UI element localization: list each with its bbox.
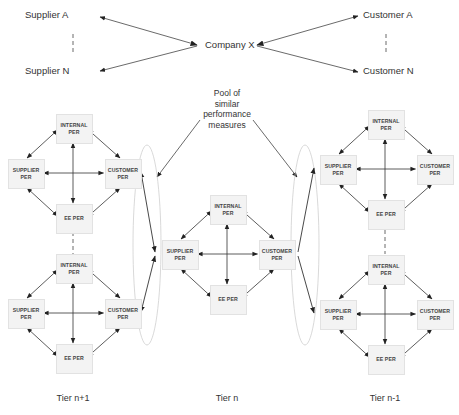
- box-label-line: INTERNAL: [372, 118, 399, 125]
- box-label-line: INTERNAL: [60, 262, 87, 269]
- tier-label-left: Tier n+1: [43, 393, 103, 403]
- box-label-line: CUSTOMER: [420, 163, 450, 170]
- box-ee-per: EE PER: [368, 200, 405, 230]
- box-customer-per: CUSTOMERPER: [417, 155, 454, 185]
- box-label-line: EE PER: [376, 211, 396, 218]
- box-internal-per: INTERNALPER: [56, 114, 93, 144]
- supplier-n-label: Supplier N: [25, 65, 69, 76]
- box-supplier-per: SUPPLIERPER: [320, 300, 357, 330]
- box-label-line: PER: [108, 314, 138, 321]
- tier-label-center: Tier n: [197, 393, 257, 403]
- box-internal-per: INTERNALPER: [56, 254, 93, 284]
- box-label-line: EE PER: [64, 355, 84, 362]
- box-label-line: PER: [108, 174, 138, 181]
- box-supplier-per: SUPPLIERPER: [320, 155, 357, 185]
- pool-label: Pool of similar performance measures: [192, 88, 262, 131]
- box-label-line: PER: [13, 174, 40, 181]
- box-label-line: EE PER: [376, 356, 396, 363]
- box-customer-per: CUSTOMERPER: [417, 300, 454, 330]
- box-internal-per: INTERNALPER: [210, 195, 247, 225]
- box-label-line: INTERNAL: [60, 122, 87, 129]
- box-label-line: SUPPLIER: [325, 308, 352, 315]
- box-label-line: INTERNAL: [372, 263, 399, 270]
- box-label-line: SUPPLIER: [13, 307, 40, 314]
- box-customer-per: CUSTOMERPER: [259, 240, 296, 270]
- box-label-line: PER: [420, 315, 450, 322]
- box-label-line: INTERNAL: [214, 203, 241, 210]
- box-label-line: PER: [13, 314, 40, 321]
- box-customer-per: CUSTOMERPER: [105, 159, 142, 189]
- pool-line: measures: [192, 120, 262, 131]
- box-label-line: PER: [372, 125, 399, 132]
- box-label-line: SUPPLIER: [13, 167, 40, 174]
- box-label-line: PER: [167, 255, 194, 262]
- pool-line: Pool of: [192, 88, 262, 99]
- box-label-line: PER: [262, 255, 292, 262]
- box-label-line: SUPPLIER: [167, 248, 194, 255]
- box-label-line: CUSTOMER: [108, 167, 138, 174]
- box-label-line: CUSTOMER: [420, 308, 450, 315]
- box-supplier-per: SUPPLIERPER: [8, 159, 45, 189]
- pool-line: similar: [192, 99, 262, 110]
- box-supplier-per: SUPPLIERPER: [162, 240, 199, 270]
- box-internal-per: INTERNALPER: [368, 110, 405, 140]
- box-label-line: EE PER: [218, 296, 238, 303]
- box-ee-per: EE PER: [210, 285, 247, 315]
- box-label-line: SUPPLIER: [325, 163, 352, 170]
- box-ee-per: EE PER: [56, 344, 93, 374]
- box-label-line: PER: [325, 315, 352, 322]
- customer-n-label: Customer N: [363, 65, 414, 76]
- box-label-line: EE PER: [64, 215, 84, 222]
- box-customer-per: CUSTOMERPER: [105, 299, 142, 329]
- customer-a-label: Customer A: [363, 9, 413, 20]
- box-label-line: PER: [372, 270, 399, 277]
- box-label-line: CUSTOMER: [262, 248, 292, 255]
- box-supplier-per: SUPPLIERPER: [8, 299, 45, 329]
- box-label-line: PER: [214, 210, 241, 217]
- tier-label-right: Tier n-1: [355, 393, 415, 403]
- box-label-line: PER: [420, 170, 450, 177]
- box-ee-per: EE PER: [56, 204, 93, 234]
- box-label-line: PER: [60, 129, 87, 136]
- box-label-line: PER: [325, 170, 352, 177]
- box-label-line: PER: [60, 269, 87, 276]
- cluster-arrows: [27, 126, 432, 357]
- box-internal-per: INTERNALPER: [368, 255, 405, 285]
- cluster-dashes: [73, 230, 385, 254]
- box-ee-per: EE PER: [368, 345, 405, 375]
- pool-line: performance: [192, 109, 262, 120]
- company-x-label: Company X: [205, 39, 255, 50]
- box-label-line: CUSTOMER: [108, 307, 138, 314]
- supplier-a-label: Supplier A: [25, 9, 68, 20]
